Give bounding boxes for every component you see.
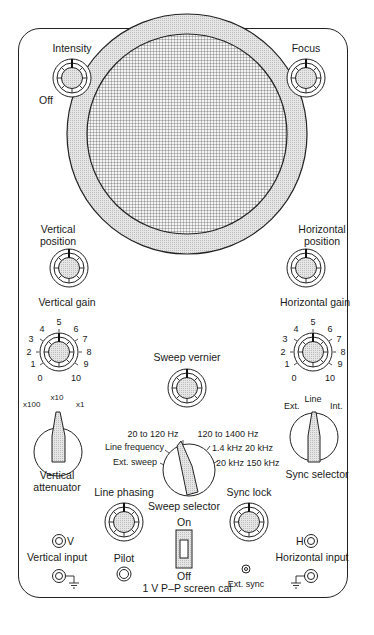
sweep-position-label: Line frequency xyxy=(105,441,164,453)
ground-icon xyxy=(65,576,79,588)
vertical-ground-jack[interactable] xyxy=(53,570,66,583)
ground-icon xyxy=(291,576,305,588)
attenuator-position-label: x1 xyxy=(76,399,84,411)
vertical-gain-knob[interactable] xyxy=(40,333,78,371)
scale-label: 8 xyxy=(86,346,91,358)
attenuator-position-label: x10 xyxy=(51,392,64,404)
scale-label: 4 xyxy=(293,323,298,335)
scale-label: 6 xyxy=(327,323,332,335)
focus-knob[interactable] xyxy=(287,59,325,97)
sync-position-label: Ext. xyxy=(284,400,300,412)
scale-label: 0 xyxy=(37,372,42,384)
line-phasing-knob[interactable] xyxy=(105,503,143,541)
pilot-lamp xyxy=(117,567,131,581)
line-phasing-label: Line phasing xyxy=(94,486,154,498)
sweep-position-label: 1.4 kHz 20 kHz xyxy=(212,442,273,454)
horizontal-input-terminal-label: H xyxy=(296,535,304,547)
vertical-position-label-2: position xyxy=(40,235,76,247)
horizontal-input-label: Horizontal input xyxy=(276,551,349,563)
vertical-attenuator-label-2: attenuator xyxy=(33,481,80,493)
horizontal-ground-jack[interactable] xyxy=(305,570,318,583)
scale-label: 5 xyxy=(56,316,61,328)
scale-label: 3 xyxy=(282,333,287,345)
scale-label: 7 xyxy=(82,333,87,345)
sync-position-label: Line xyxy=(304,393,321,405)
sweep-position-label: 20 kHz 150 kHz xyxy=(216,457,280,469)
horizontal-gain-knob[interactable] xyxy=(294,333,332,371)
vertical-gain-label: Vertical gain xyxy=(38,296,95,308)
scale-label: 9 xyxy=(337,358,342,370)
intensity-label: Intensity xyxy=(52,42,91,54)
sync-lock-label: Sync lock xyxy=(227,486,272,498)
vertical-attenuator-label-1: Vertical xyxy=(40,469,74,481)
sync-selector-switch[interactable] xyxy=(290,412,338,462)
sweep-selector-switch[interactable] xyxy=(160,440,218,496)
horizontal-position-label-2: position xyxy=(304,235,340,247)
scale-label: 5 xyxy=(310,316,315,328)
vertical-input-jack[interactable] xyxy=(53,535,66,548)
power-on-label: On xyxy=(177,516,191,528)
scale-label: 10 xyxy=(71,372,81,384)
power-off-label: Off xyxy=(177,570,191,582)
scale-label: 1 xyxy=(284,358,289,370)
scale-label: 3 xyxy=(28,333,33,345)
sweep-selector-label: Sweep selector xyxy=(148,500,220,512)
horizontal-input-jack[interactable] xyxy=(305,535,318,548)
vertical-position-label-1: Vertical xyxy=(41,223,75,235)
vertical-input-terminal-label: V xyxy=(67,535,74,547)
intensity-off-label: Off xyxy=(39,94,53,106)
vertical-position-knob[interactable] xyxy=(50,249,88,287)
scale-label: 6 xyxy=(73,323,78,335)
crt-screen xyxy=(67,14,307,254)
sweep-vernier-knob[interactable] xyxy=(168,369,206,407)
sync-selector-label: Sync selector xyxy=(285,468,348,480)
scale-label: 4 xyxy=(39,323,44,335)
scale-label: 2 xyxy=(280,346,285,358)
scale-label: 8 xyxy=(340,346,345,358)
scale-label: 9 xyxy=(83,358,88,370)
ext-sync-label: Ext. sync xyxy=(228,578,265,590)
sweep-position-label: 20 to 120 Hz xyxy=(127,428,178,440)
horizontal-gain-label: Horizontal gain xyxy=(280,296,350,308)
scale-label: 0 xyxy=(291,372,296,384)
horizontal-position-label-1: Horizontal xyxy=(298,223,345,235)
scale-label: 1 xyxy=(30,358,35,370)
scale-label: 7 xyxy=(336,333,341,345)
attenuator-position-label: x100 xyxy=(23,399,40,411)
power-switch[interactable] xyxy=(176,530,192,568)
sweep-vernier-label: Sweep vernier xyxy=(153,351,220,363)
scale-label: 10 xyxy=(325,372,335,384)
scale-label: 2 xyxy=(26,346,31,358)
screen-cal-label: 1 V P–P screen cal xyxy=(142,582,231,594)
sync-position-label: Int. xyxy=(330,400,343,412)
sync-lock-knob[interactable] xyxy=(230,503,268,541)
horizontal-position-knob[interactable] xyxy=(287,249,325,287)
ext-sync-jack[interactable] xyxy=(242,565,250,573)
sweep-position-label: Ext. sweep xyxy=(113,456,157,468)
pilot-label: Pilot xyxy=(114,552,134,564)
intensity-knob[interactable] xyxy=(53,59,91,97)
focus-label: Focus xyxy=(292,42,321,54)
vertical-attenuator-switch[interactable] xyxy=(34,412,82,476)
sweep-position-label: 120 to 1400 Hz xyxy=(197,428,258,440)
vertical-input-label: Vertical input xyxy=(27,551,87,563)
